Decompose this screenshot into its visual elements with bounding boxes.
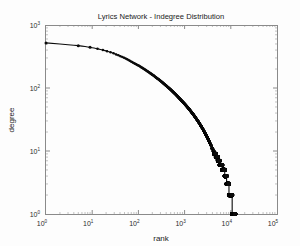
data-point	[220, 163, 224, 167]
plot-frame	[46, 26, 278, 215]
y-tick-label: 103	[30, 21, 41, 29]
data-point	[230, 193, 234, 197]
axis-tick-marks	[46, 25, 277, 214]
data-point	[212, 147, 215, 150]
y-tick-label: 102	[30, 84, 41, 92]
x-tick-label: 101	[83, 219, 94, 227]
data-point	[45, 41, 48, 44]
y-axis-tick-labels: 103102101100	[30, 21, 41, 218]
data-point	[77, 44, 80, 47]
data-point	[96, 47, 99, 50]
x-axis-tick-labels: 100101102103104105	[37, 219, 279, 227]
data-point	[218, 159, 222, 163]
x-tick-label: 105	[268, 219, 279, 227]
data-point	[102, 49, 105, 52]
data-point	[106, 50, 109, 53]
x-axis-label: rank	[153, 234, 170, 243]
log-log-scatter-plot: Lyrics Network - Indegree Distribution 1…	[0, 0, 300, 246]
data-point	[224, 174, 228, 178]
data-point	[89, 46, 92, 49]
chart-title: Lyrics Network - Indegree Distribution	[98, 12, 224, 21]
x-tick-label: 103	[175, 219, 186, 227]
x-tick-label: 102	[129, 219, 140, 227]
data-series-indegree	[45, 41, 238, 216]
data-point	[227, 182, 231, 186]
data-point	[211, 145, 214, 148]
y-tick-label: 100	[30, 210, 41, 218]
data-point	[112, 52, 115, 55]
x-tick-label: 104	[222, 219, 233, 227]
data-point	[109, 51, 112, 54]
data-point	[233, 212, 237, 216]
data-point	[115, 53, 118, 56]
data-curve	[46, 43, 235, 214]
x-tick-label: 100	[37, 219, 48, 227]
chart-figure: Lyrics Network - Indegree Distribution 1…	[0, 0, 300, 246]
y-axis-label: degree	[7, 107, 16, 132]
y-tick-label: 101	[30, 147, 41, 155]
data-point	[216, 155, 220, 159]
data-point	[223, 168, 227, 172]
